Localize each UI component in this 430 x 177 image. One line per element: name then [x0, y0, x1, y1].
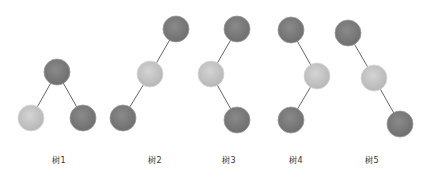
binary-trees-diagram: 树1 树2 树3 树4 树5	[0, 0, 430, 177]
tree-label-1: 树1	[52, 155, 65, 165]
tree-3-node-root	[224, 16, 250, 42]
tree-1-node-right	[70, 105, 96, 131]
tree-2-node-left-left	[110, 105, 136, 131]
tree-2-node-root	[163, 16, 189, 42]
tree-4-node-root	[278, 17, 304, 43]
tree-5-node-right-right	[387, 111, 413, 137]
tree-label-5: 树5	[365, 155, 378, 165]
tree-3-node-left-right	[224, 107, 250, 133]
tree-4-node-right-left	[278, 107, 304, 133]
tree-1-node-left	[18, 105, 44, 131]
tree-label-4: 树4	[289, 155, 302, 165]
tree-2-node-left	[137, 61, 163, 87]
tree-5-node-right	[361, 65, 387, 91]
tree-1-node-root	[44, 59, 70, 85]
tree-3-node-left	[198, 61, 224, 87]
diagram-svg: 树1 树2 树3 树4 树5	[0, 0, 430, 177]
tree-5-node-root	[335, 20, 361, 46]
tree-label-2: 树2	[148, 155, 161, 165]
tree-label-3: 树3	[222, 155, 235, 165]
tree-4-node-right	[304, 63, 330, 89]
